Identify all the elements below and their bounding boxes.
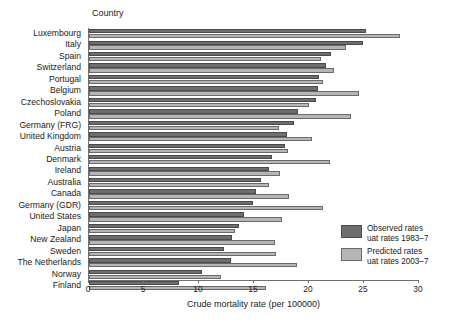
x-tick-label: 25 [358,284,367,294]
bar-observed [89,75,319,79]
category-axis-labels: LuxembourgItalySpainSwitzerlandPortugalB… [0,28,85,291]
bar-predicted [89,91,359,95]
x-tick-mark [308,280,309,283]
legend-series-name: Predicted rates [367,247,428,257]
category-label: New Zealand [0,234,85,245]
x-tick-label: 0 [86,284,91,294]
category-label: The Netherlands [0,257,85,268]
x-axis-label: Crude mortality rate (per 100000) [88,299,419,309]
legend-label-group: Observed ratesuat rates 1983–7 [367,224,428,244]
bar-predicted [89,68,334,72]
bar-row [89,131,419,142]
category-label: Sweden [0,246,85,257]
legend-series-sublabel: uat rates 1983–7 [367,234,428,244]
bar-row [89,62,419,73]
bar-predicted [89,103,309,107]
category-label: Finland [0,280,85,291]
x-tick-label: 15 [248,284,257,294]
category-label: Denmark [0,154,85,165]
bar-row [89,200,419,211]
bar-observed [89,29,366,33]
x-axis-ticks: 051015202530 [88,280,419,300]
bar-row [89,177,419,188]
bar-predicted [89,240,275,244]
category-label: Luxembourg [0,28,85,39]
bar-observed [89,178,261,182]
category-label: Spain [0,51,85,62]
bar-observed [89,109,298,113]
bar-observed [89,235,232,239]
category-label: Austria [0,143,85,154]
legend-label-group: Predicted ratesuat rates 2003–7 [367,247,428,267]
bar-row [89,74,419,85]
bar-predicted [89,57,321,61]
x-tick-mark [363,280,364,283]
bar-row [89,97,419,108]
x-tick-mark [143,280,144,283]
bar-predicted [89,171,280,175]
legend-swatch-observed [341,225,362,238]
x-tick-mark [198,280,199,283]
bar-row [89,51,419,62]
bar-observed [89,132,287,136]
bar-observed [89,258,231,262]
category-label: Canada [0,188,85,199]
category-label: Germany (FRG) [0,120,85,131]
bar-predicted [89,160,330,164]
legend-entry: Observed ratesuat rates 1983–7 [341,224,463,244]
bar-predicted [89,126,279,130]
bar-predicted [89,263,297,267]
bar-row [89,154,419,165]
bar-observed [89,189,256,193]
bar-row [89,108,419,119]
bar-row [89,269,419,280]
x-tick-label: 20 [303,284,312,294]
legend-series-name: Observed rates [367,224,428,234]
bar-predicted [89,34,400,38]
bar-predicted [89,80,323,84]
bar-observed [89,98,316,102]
bar-predicted [89,194,289,198]
category-label: Ireland [0,165,85,176]
bar-observed [89,212,244,216]
x-tick-mark [253,280,254,283]
x-tick-label: 30 [413,284,422,294]
bar-observed [89,86,318,90]
bar-row [89,165,419,176]
x-tick-mark [88,280,89,283]
bar-row [89,188,419,199]
bar-row [89,28,419,39]
bar-predicted [89,252,276,256]
bar-row [89,143,419,154]
category-label: Italy [0,39,85,50]
bar-predicted [89,217,282,221]
bar-row [89,120,419,131]
bar-row [89,211,419,222]
legend-entry: Predicted ratesuat rates 2003–7 [341,247,463,267]
category-label: United Kingdom [0,131,85,142]
bar-predicted [89,275,221,279]
country-column-header: Country [92,8,124,18]
x-tick-label: 5 [141,284,146,294]
category-label: Czechoslovakia [0,97,85,108]
bar-observed [89,270,202,274]
bar-predicted [89,229,235,233]
bar-chart: Country LuxembourgItalySpainSwitzerlandP… [0,0,465,325]
bar-observed [89,247,224,251]
bar-observed [89,155,272,159]
bar-observed [89,144,285,148]
category-label: Poland [0,108,85,119]
bar-row [89,39,419,50]
bar-predicted [89,183,269,187]
legend-series-sublabel: uat rates 2003–7 [367,257,428,267]
bar-predicted [89,45,346,49]
bar-predicted [89,149,288,153]
category-label: Switzerland [0,62,85,73]
bar-observed [89,224,239,228]
bar-observed [89,41,363,45]
category-label: Japan [0,223,85,234]
x-tick-label: 10 [193,284,202,294]
bar-observed [89,63,326,67]
bar-predicted [89,206,323,210]
bar-predicted [89,114,351,118]
